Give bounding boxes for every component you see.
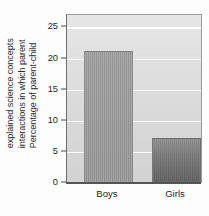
y-axis-title-line-2: interactions in which parent xyxy=(16,39,28,148)
y-tick-mark-10 xyxy=(61,119,66,120)
x-axis-tick-labels: BoysGirls xyxy=(66,188,200,208)
y-axis-title-line-3: explained science concepts xyxy=(5,38,17,148)
x-axis-line xyxy=(66,182,201,184)
y-tick-mark-25 xyxy=(61,26,66,27)
plot-area xyxy=(66,14,202,183)
y-tick-mark-0 xyxy=(61,182,66,183)
y-tick-label-5: 5 xyxy=(53,146,58,156)
y-tick-label-10: 10 xyxy=(48,115,58,125)
bar-girls xyxy=(152,138,201,183)
gridline-25 xyxy=(67,27,201,29)
y-axis-title-line-1: Percentage of parent-child xyxy=(28,43,40,148)
y-tick-label-0: 0 xyxy=(53,177,58,187)
y-tick-label-25: 25 xyxy=(48,21,58,31)
y-tick-mark-5 xyxy=(61,150,66,151)
y-tick-label-20: 20 xyxy=(48,53,58,63)
y-tick-mark-20 xyxy=(61,57,66,58)
y-tick-mark-15 xyxy=(61,88,66,89)
y-axis-title: Percentage of parent-child interactions … xyxy=(0,0,44,186)
bar-boys xyxy=(84,51,133,183)
x-tick-label-boys: Boys xyxy=(96,188,117,199)
y-axis-title-text: Percentage of parent-child interactions … xyxy=(5,38,40,148)
y-tick-label-15: 15 xyxy=(48,84,58,94)
x-tick-label-girls: Girls xyxy=(165,188,185,199)
y-axis-tick-labels: 0510152025 xyxy=(44,0,61,216)
bar-chart-figure: Percentage of parent-child interactions … xyxy=(0,0,209,216)
